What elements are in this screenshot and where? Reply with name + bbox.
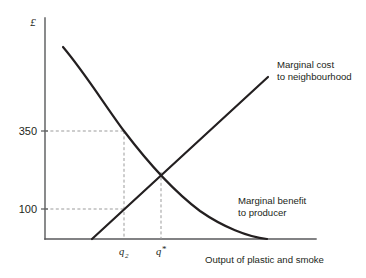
marginal-cost-label: Marginal cost to neighbourhood (277, 59, 352, 82)
x-tick-label-qstar: q * (156, 244, 167, 257)
externality-chart-figure: £ 350 100 q 2 q * Marginal cost to neigh… (0, 0, 366, 278)
marginal-benefit-label: Marginal benefit to producer (238, 195, 307, 218)
q2-base-label: q (119, 246, 124, 257)
marginal-benefit-curve (63, 47, 267, 239)
q2-subscript-label: 2 (125, 252, 129, 260)
marginal-cost-label-line1: Marginal cost (277, 59, 334, 70)
marginal-cost-label-line2: to neighbourhood (277, 71, 352, 82)
x-tick-label-q2: q 2 (119, 246, 129, 260)
y-axis-unit-label: £ (30, 16, 36, 28)
marginal-benefit-label-line1: Marginal benefit (238, 195, 307, 206)
chart-canvas: £ 350 100 q 2 q * Marginal cost to neigh… (0, 0, 366, 278)
qstar-base-label: q (156, 246, 161, 257)
y-tick-label-100: 100 (19, 203, 37, 215)
marginal-benefit-label-line2: to producer (238, 207, 287, 218)
x-axis-title: Output of plastic and smoke (205, 254, 324, 265)
qstar-star-label: * (162, 244, 167, 254)
y-tick-label-350: 350 (19, 125, 37, 137)
guide-lines-group (45, 131, 161, 239)
